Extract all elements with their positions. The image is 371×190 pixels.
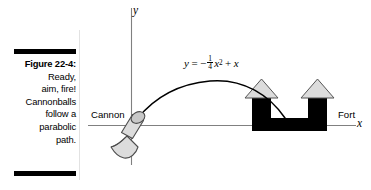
caption-line-5: parabolic [4,121,76,134]
fort-graphic [245,79,334,131]
figure-number-label: Figure 22-4: [4,58,76,71]
caption-line-3: Cannonballs [4,96,76,109]
parabola-equation: y = − 1 4 x2 + x [184,55,239,72]
fraction-denominator: 4 [207,62,213,71]
caption-line-2: aim, fire! [4,83,76,96]
fort-body [252,97,327,131]
cannon-base [111,136,138,158]
parabola-plot: Cannon Fort y x y = − 1 4 x2 + x [80,0,371,190]
cannon-label: Cannon [91,109,125,120]
equation-equals: = [191,58,197,69]
caption-rule-top [14,49,76,54]
equation-plus: + [225,58,231,69]
figure-caption: Figure 22-4: Ready, aim, fire! Cannonbal… [4,58,76,146]
y-axis-label: y [133,4,138,16]
fort-roof-right [301,79,334,98]
x-axis-label: x [357,117,362,129]
fraction-numerator: 1 [207,55,213,63]
figure-22-4: Figure 22-4: Ready, aim, fire! Cannonbal… [0,0,371,190]
equation-minus: − [200,58,206,69]
equation-last-term: x [234,58,239,69]
caption-line-4: follow a [4,108,76,121]
caption-line-6: path. [4,134,76,147]
fort-label: Fort [338,109,355,120]
equation-fraction: 1 4 [207,55,213,72]
equation-lhs: y [184,58,189,69]
caption-line-1: Ready, [4,71,76,84]
caption-rule-bottom [14,171,76,176]
